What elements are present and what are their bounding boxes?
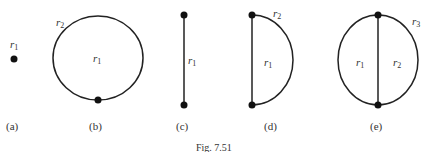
planar-graphs-figure: r1 (a) r2 r1 (b) r1 (c) r2 r1 (d) r1 r2 … [0, 0, 424, 152]
region-label-r2: r2 [56, 16, 64, 30]
figure-caption: Fig. 7.51 [196, 142, 232, 152]
region-label-r1: r1 [10, 38, 18, 52]
region-label-r1: r1 [188, 54, 196, 68]
panel-c: r1 (c) [176, 12, 196, 134]
panel-label-a: (a) [6, 120, 19, 133]
vertex [11, 56, 18, 63]
vertex-top [375, 12, 382, 19]
region-label-r2: r2 [273, 7, 281, 21]
panel-a: r1 (a) [6, 38, 19, 133]
region-label-r2: r2 [393, 56, 401, 70]
region-label-r1: r1 [264, 56, 272, 70]
panel-label-e: (e) [370, 120, 383, 133]
panel-d: r2 r1 (d) [249, 7, 294, 133]
panel-label-c: (c) [176, 120, 189, 133]
region-label-r1: r1 [93, 52, 101, 66]
region-label-r1: r1 [356, 56, 364, 70]
arc-edge [252, 15, 293, 105]
panel-label-d: (d) [264, 120, 277, 133]
panel-b: r2 r1 (b) [53, 16, 143, 133]
vertex [95, 97, 102, 104]
vertex-bottom [375, 102, 382, 109]
region-label-r3: r3 [412, 15, 420, 29]
vertex-top [181, 12, 188, 19]
vertex-top [249, 12, 256, 19]
panel-label-b: (b) [89, 120, 102, 133]
vertex-bottom [181, 102, 188, 109]
vertex-bottom [249, 102, 256, 109]
panel-e: r1 r2 r3 (e) [338, 12, 420, 134]
